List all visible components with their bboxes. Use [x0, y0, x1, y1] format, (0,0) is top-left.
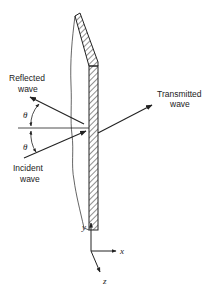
y-axis-label: y	[81, 222, 86, 232]
angle-arc-top	[31, 104, 39, 126]
slab-upper	[75, 13, 98, 66]
transmitted-label-line1: Transmitted	[157, 89, 202, 99]
theta-bottom-label: θ	[23, 142, 28, 152]
reflected-label-line1: Reflected	[9, 73, 45, 83]
reflected-label-line2: wave	[17, 84, 38, 94]
theta-top-label: θ	[23, 110, 28, 120]
z-axis-arrow	[91, 251, 100, 272]
z-axis-label: z	[102, 276, 107, 286]
incident-wave-arrow	[24, 131, 86, 158]
transmitted-label-line2: wave	[169, 99, 190, 109]
incident-label-line1: Incident	[13, 163, 43, 173]
angle-arc-bottom	[31, 131, 36, 152]
diagram-canvas: Reflected wave Incident wave Transmitted…	[0, 0, 213, 291]
slab	[89, 66, 98, 230]
incident-label-line2: wave	[19, 174, 40, 184]
transmitted-wave-arrow	[98, 105, 152, 133]
reflected-wave-arrow	[30, 97, 84, 124]
x-axis-label: x	[119, 246, 124, 256]
